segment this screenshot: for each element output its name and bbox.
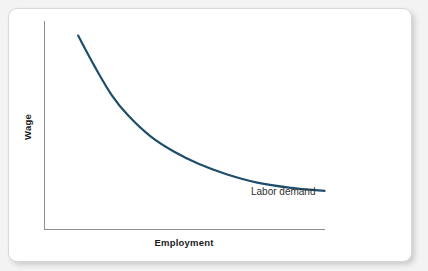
labor-demand-curve: [78, 36, 324, 191]
labor-demand-chart: Wage Employment Labor demand: [9, 9, 412, 262]
y-axis-title: Wage: [22, 114, 33, 140]
labor-demand-label: Labor demand: [251, 186, 316, 197]
figure-card: Wage Employment Labor demand: [8, 8, 412, 262]
x-axis-title: Employment: [154, 237, 214, 248]
